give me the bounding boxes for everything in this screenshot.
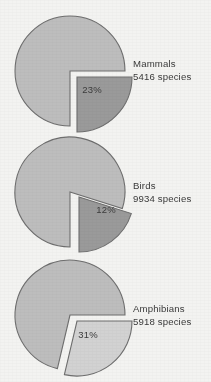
- pie-label-amphibians-percent: 31%: [78, 329, 98, 340]
- pie-label-amphibians-species: 5918 species: [133, 316, 191, 329]
- pie-chart-mammals: 23%: [15, 16, 132, 132]
- pie-chart-birds: 12%: [15, 137, 131, 252]
- pie-label-birds-species: 9934 species: [133, 193, 191, 206]
- pie-chart-amphibians: 31%: [15, 260, 132, 376]
- pie-label-mammals: Mammals 5416 species: [133, 58, 191, 83]
- pie-label-amphibians-title: Amphibians: [133, 303, 191, 316]
- pie-label-mammals-title: Mammals: [133, 58, 191, 71]
- pie-label-birds: Birds 9934 species: [133, 180, 191, 205]
- pie-slice-amphibians-threatened: [64, 321, 132, 376]
- pie-label-birds-percent: 12%: [96, 204, 116, 215]
- pie-label-amphibians: Amphibians 5918 species: [133, 303, 191, 328]
- pie-label-birds-title: Birds: [133, 180, 191, 193]
- pie-label-mammals-percent: 23%: [82, 84, 102, 95]
- pie-label-mammals-species: 5416 species: [133, 71, 191, 84]
- pie-chart-figure: 23% 12% 31% Mammals 5416 species B: [0, 0, 211, 382]
